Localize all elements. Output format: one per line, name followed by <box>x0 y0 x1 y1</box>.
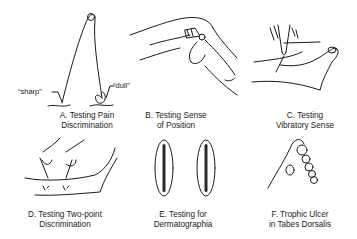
caption-f: F. Trophic Ulcer in Tabes Dorsalis <box>255 210 345 230</box>
foot-ulcer-illustration <box>240 130 357 202</box>
panel-d <box>0 130 125 200</box>
two-point-illustration <box>0 130 125 200</box>
caption-e: E. Testing for Dermatographia <box>143 210 223 230</box>
caption-a: A. Testing Pain Discrimination <box>48 111 126 131</box>
panel-e <box>140 130 240 202</box>
panel-c <box>240 0 357 110</box>
caption-b: B. Testing Sense of Position <box>135 111 217 131</box>
caption-c: C. Testing Vibratory Sense <box>265 111 345 131</box>
position-sense-illustration <box>125 0 240 110</box>
caption-d: D. Testing Two-point Discrimination <box>15 210 115 230</box>
panel-b <box>125 0 240 110</box>
dermatographia-illustration <box>140 130 240 202</box>
tuning-fork-illustration <box>240 0 357 110</box>
panel-f <box>240 130 357 202</box>
label-sharp: “sharp” <box>18 87 42 96</box>
